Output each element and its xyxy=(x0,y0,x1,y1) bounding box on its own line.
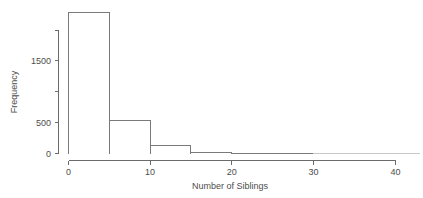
plot-background xyxy=(0,0,423,198)
x-axis-title: Number of Siblings xyxy=(192,181,269,191)
x-tick-label-0: 0 xyxy=(66,167,71,177)
y-tick-label-500: 500 xyxy=(36,118,51,128)
y-tick-label-1500: 1500 xyxy=(31,56,51,66)
y-axis-title: Frequency xyxy=(9,70,19,113)
x-tick-label-20: 20 xyxy=(227,167,237,177)
y-tick-label-0: 0 xyxy=(46,149,51,159)
histogram-plot-canvas: 0 500 1500 Frequency 0 10 20 30 40 Numbe… xyxy=(0,0,423,198)
x-tick-label-30: 30 xyxy=(308,167,318,177)
histogram-svg: 0 500 1500 Frequency 0 10 20 30 40 Numbe… xyxy=(0,0,423,198)
x-tick-label-10: 10 xyxy=(145,167,155,177)
x-tick-label-40: 40 xyxy=(390,167,400,177)
